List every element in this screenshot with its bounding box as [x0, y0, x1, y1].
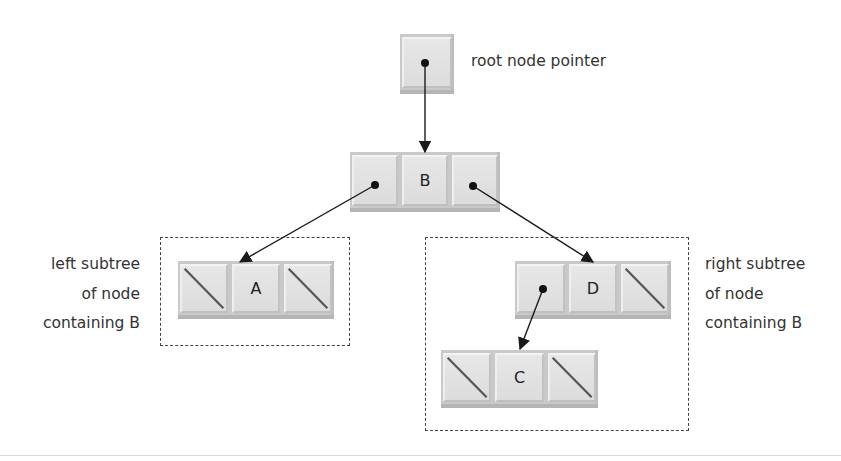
d-to-c-arrow [520, 285, 547, 349]
b-to-d-arrow [469, 182, 593, 262]
b-to-a-arrow [240, 181, 379, 262]
root-to-b-arrow [421, 59, 429, 152]
diagram-canvas: root node pointer B A left subtree of no… [0, 0, 841, 461]
bottom-divider [0, 455, 841, 456]
pointer-arrows [0, 0, 841, 461]
